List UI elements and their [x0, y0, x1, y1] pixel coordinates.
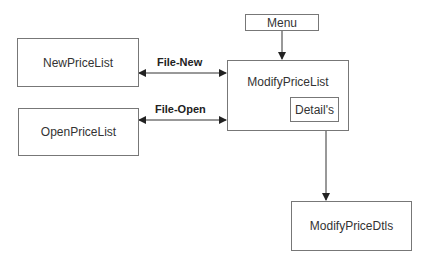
details-node: Detail's — [290, 97, 339, 122]
menu-node: Menu — [245, 14, 319, 31]
open-price-list-node: OpenPriceList — [18, 108, 139, 156]
modify-price-list-label: ModifyPriceList — [247, 75, 328, 89]
new-price-list-label: NewPriceList — [43, 56, 113, 70]
details-label: Detail's — [295, 103, 334, 117]
open-price-list-label: OpenPriceList — [41, 125, 116, 139]
modify-price-dtls-node: ModifyPriceDtls — [291, 201, 412, 251]
new-price-list-node: NewPriceList — [17, 38, 139, 87]
menu-label: Menu — [267, 16, 297, 30]
file-new-label: File-New — [157, 56, 202, 68]
modify-price-dtls-label: ModifyPriceDtls — [310, 219, 393, 233]
file-open-label: File-Open — [155, 103, 206, 115]
